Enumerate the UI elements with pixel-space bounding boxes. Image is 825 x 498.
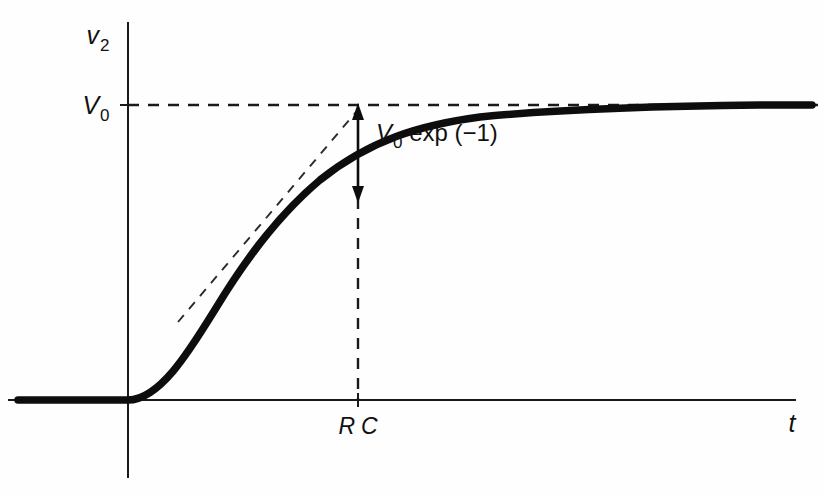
tangent-dashed-line <box>178 112 356 322</box>
annotation-label-v: V <box>376 119 394 146</box>
figure-root: v2 V0 V0 exp (−1) RC t <box>0 0 825 498</box>
annotation-label: V0 exp (−1) <box>376 119 498 152</box>
v0-level-label-subscript: 0 <box>100 106 109 125</box>
arrow-head-down <box>352 186 364 203</box>
annotation-label-subscript: 0 <box>393 133 402 152</box>
y-axis-label-subscript: 2 <box>100 36 109 55</box>
v0-level-label: V0 <box>82 91 109 125</box>
x-axis-tick-label-rc: RC <box>338 413 378 439</box>
y-axis-label: v2 <box>87 21 110 55</box>
v0-level-label-main: V <box>82 91 101 119</box>
x-tick-label-c: C <box>361 413 378 439</box>
x-tick-label-r: R <box>338 413 355 439</box>
annotation-label-rest: exp (−1) <box>402 119 497 146</box>
charging-curve <box>18 105 812 400</box>
rc-response-chart: v2 V0 V0 exp (−1) RC t <box>0 0 825 498</box>
x-axis-label: t <box>789 409 797 437</box>
y-axis-label-main: v <box>87 21 101 49</box>
